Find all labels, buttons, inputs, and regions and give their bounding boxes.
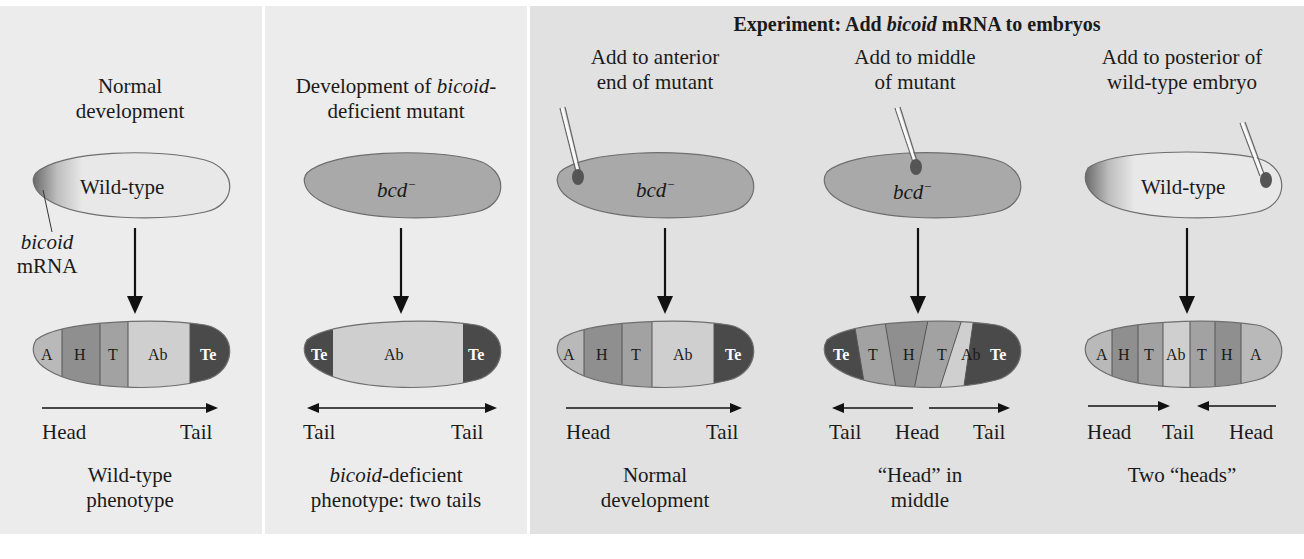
segment-label: Te xyxy=(990,343,1006,367)
segment-label: H xyxy=(903,343,915,367)
segment-label: H xyxy=(74,343,86,367)
segment-label: Te xyxy=(468,343,484,367)
axis-label-head: Head xyxy=(895,420,939,444)
axis-label-tail: Tail xyxy=(303,420,335,444)
segment-label: Te xyxy=(200,343,216,367)
segment-label: T xyxy=(631,343,641,367)
segment-label: H xyxy=(1118,343,1130,367)
segment-label: Ab xyxy=(384,343,404,367)
axis-label-tail: Tail xyxy=(973,420,1005,444)
result-caption: Wild-type phenotype xyxy=(20,463,240,513)
axis-label-tail: Tail xyxy=(451,420,483,444)
segment-label: T xyxy=(1197,343,1207,367)
axis-label-head: Head xyxy=(1087,420,1131,444)
segment-label: Ab xyxy=(961,343,981,367)
axis-label-tail: Tail xyxy=(180,420,212,444)
segment-label: A xyxy=(1096,343,1108,367)
segment-label: A xyxy=(41,343,53,367)
segment-label: H xyxy=(596,343,608,367)
segment-label: T xyxy=(868,343,878,367)
segment-label: Te xyxy=(311,343,327,367)
segment-label: T xyxy=(108,343,118,367)
segment-label: H xyxy=(1221,343,1233,367)
result-caption: Normal development xyxy=(540,463,770,513)
segment-label: T xyxy=(1144,343,1154,367)
segment-label: Ab xyxy=(148,343,168,367)
result-caption: Two “heads” xyxy=(1060,463,1304,488)
axis-label-head: Head xyxy=(1229,420,1273,444)
axis-label-tail: Tail xyxy=(706,420,738,444)
segment-label: T xyxy=(937,343,947,367)
segment-label: Te xyxy=(725,343,741,367)
axis-label-tail: Tail xyxy=(1162,420,1194,444)
result-caption: bicoid-deficient phenotype: two tails xyxy=(265,463,527,513)
result-caption: “Head” in middle xyxy=(805,463,1035,513)
segment-label: Ab xyxy=(1166,343,1186,367)
axis-label-head: Head xyxy=(566,420,610,444)
segment-label: Te xyxy=(833,343,849,367)
axis-label-tail: Tail xyxy=(829,420,861,444)
axis-label-head: Head xyxy=(42,420,86,444)
segment-label: A xyxy=(1250,343,1262,367)
segment-label: Ab xyxy=(673,343,693,367)
segment-label: A xyxy=(563,343,575,367)
